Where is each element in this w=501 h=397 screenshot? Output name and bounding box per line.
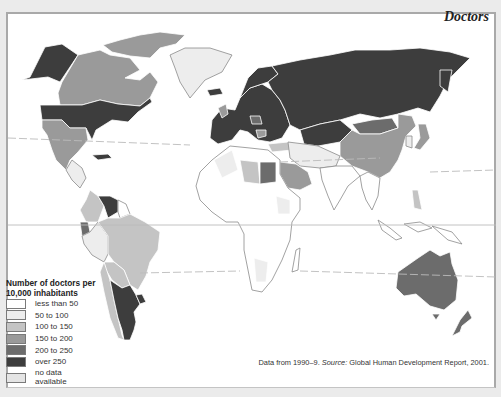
legend-label: 200 to 250 [35, 346, 73, 355]
legend-item-100-to-150: 100 to 150 [6, 321, 116, 333]
region-poland [250, 116, 262, 124]
region-southern-africa [254, 258, 268, 282]
legend-title-line2: 10,000 inhabitants [6, 288, 116, 298]
footnote-source: Global Human Development Report, 2001. [349, 358, 489, 367]
map-title: Doctors [444, 9, 489, 25]
region-colombia [80, 190, 104, 222]
region-southeast-asia [360, 172, 380, 210]
region-iceland [207, 88, 223, 96]
footnote-prefix: Data from 1990–9. [258, 358, 319, 367]
legend-label: over 250 [35, 357, 66, 366]
legend-item-over-250: over 250 [6, 356, 116, 368]
region-cuba [92, 154, 112, 160]
region-tasmania [432, 314, 440, 320]
legend-item-50-to-100: 50 to 100 [6, 310, 116, 322]
legend-label: 150 to 200 [35, 334, 73, 343]
legend-title-line1: Number of doctors per [6, 278, 116, 288]
swatch-50-to-100 [6, 310, 26, 320]
region-madagascar [292, 248, 300, 272]
region-india [320, 166, 360, 210]
region-australia [396, 250, 458, 310]
region-central-america [66, 160, 86, 188]
legend-item-150-to-200: 150 to 200 [6, 333, 116, 345]
legend-item-200-to-250: 200 to 250 [6, 344, 116, 356]
swatch-less-than-50 [6, 299, 26, 309]
swatch-over-250 [6, 357, 26, 367]
swatch-no-data [6, 373, 26, 383]
footnote: Data from 1990–9. Source: Global Human D… [258, 358, 489, 367]
region-philippines [412, 190, 422, 210]
legend-item-less-than-50: less than 50 [6, 298, 116, 310]
region-korea [406, 136, 412, 148]
region-russia [268, 48, 470, 130]
swatch-200-to-250 [6, 345, 26, 355]
swatch-100-to-150 [6, 322, 26, 332]
region-greenland [170, 48, 232, 98]
footnote-source-label: Source: [322, 358, 347, 367]
legend-label: no data available [35, 369, 75, 386]
region-japan [414, 124, 430, 150]
legend-title: Number of doctors per 10,000 inhabitants [6, 278, 116, 298]
region-indonesia [378, 220, 462, 244]
legend: Number of doctors per 10,000 inhabitants… [6, 278, 116, 388]
legend-label: 100 to 150 [35, 322, 73, 331]
legend-item-no-data: no data available [6, 368, 116, 388]
legend-label: less than 50 [35, 299, 78, 308]
swatch-150-to-200 [6, 334, 26, 344]
legend-label: 50 to 100 [35, 311, 68, 320]
legend-label-line2: available [35, 377, 67, 386]
region-new-zealand [452, 310, 472, 336]
region-egypt [260, 162, 276, 184]
